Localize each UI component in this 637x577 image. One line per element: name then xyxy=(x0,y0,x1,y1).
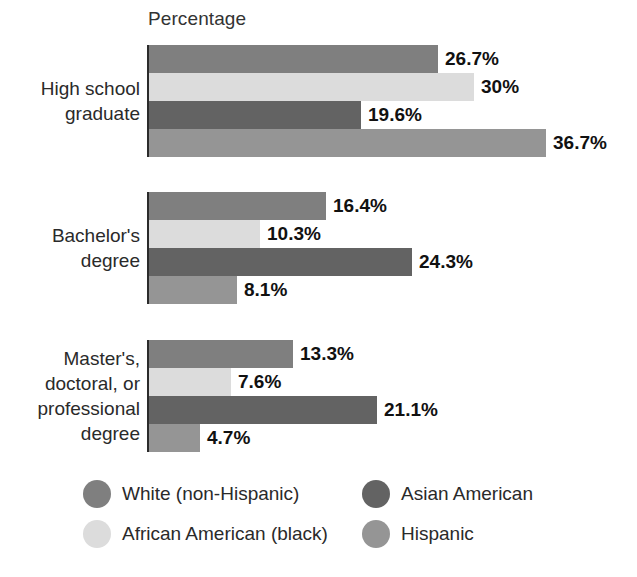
bar xyxy=(149,129,546,157)
bar xyxy=(149,101,361,129)
legend-item-white[interactable]: White (non-Hispanic) xyxy=(83,480,299,508)
bar-row: 16.4% xyxy=(149,192,629,220)
category-label: Bachelor's degree xyxy=(52,223,140,273)
bar-value-label: 7.6% xyxy=(231,371,281,393)
bar-row: 10.3% xyxy=(149,220,629,248)
bar xyxy=(149,340,293,368)
bar-value-label: 21.1% xyxy=(377,399,438,421)
bar-value-label: 4.7% xyxy=(200,427,250,449)
bar-row: 4.7% xyxy=(149,424,629,452)
bar xyxy=(149,248,412,276)
legend-swatch-circle-icon xyxy=(362,520,390,548)
bar xyxy=(149,73,474,101)
bar xyxy=(149,368,231,396)
bar-value-label: 24.3% xyxy=(412,251,473,273)
legend-label: White (non-Hispanic) xyxy=(122,483,299,505)
bar xyxy=(149,424,200,452)
legend-swatch-circle-icon xyxy=(83,480,111,508)
chart-legend: White (non-Hispanic)Asian AmericanAfrica… xyxy=(0,472,637,572)
legend-swatch-circle-icon xyxy=(83,520,111,548)
bar-group: High school graduate26.7%30%19.6%36.7% xyxy=(0,45,637,157)
legend-item-asian_american[interactable]: Asian American xyxy=(362,480,533,508)
bar xyxy=(149,192,326,220)
legend-item-african_american[interactable]: African American (black) xyxy=(83,520,328,548)
bar-group: Master's, doctoral, or professional degr… xyxy=(0,340,637,452)
bar xyxy=(149,45,438,73)
bar-group: Bachelor's degree16.4%10.3%24.3%8.1% xyxy=(0,192,637,304)
legend-label: Hispanic xyxy=(401,523,474,545)
bar xyxy=(149,220,260,248)
bar xyxy=(149,276,237,304)
bar xyxy=(149,396,377,424)
bar-value-label: 8.1% xyxy=(237,279,287,301)
bar-row: 8.1% xyxy=(149,276,629,304)
legend-swatch-circle-icon xyxy=(362,480,390,508)
bar-value-label: 16.4% xyxy=(326,195,387,217)
bar-value-label: 26.7% xyxy=(438,48,499,70)
bar-row: 36.7% xyxy=(149,129,629,157)
bar-row: 13.3% xyxy=(149,340,629,368)
bar-row: 19.6% xyxy=(149,101,629,129)
legend-label: African American (black) xyxy=(122,523,328,545)
bar-row: 30% xyxy=(149,73,629,101)
bar-value-label: 19.6% xyxy=(361,104,422,126)
bar-row: 7.6% xyxy=(149,368,629,396)
category-label: High school graduate xyxy=(41,76,140,126)
bar-value-label: 13.3% xyxy=(293,343,354,365)
bar-value-label: 30% xyxy=(474,76,519,98)
legend-label: Asian American xyxy=(401,483,533,505)
bar-chart: Educational Attainment Percentage High s… xyxy=(0,0,637,577)
bar-row: 26.7% xyxy=(149,45,629,73)
bar-value-label: 10.3% xyxy=(260,223,321,245)
plot-area: High school graduate26.7%30%19.6%36.7%Ba… xyxy=(0,0,637,470)
legend-item-hispanic[interactable]: Hispanic xyxy=(362,520,474,548)
bar-row: 21.1% xyxy=(149,396,629,424)
bar-row: 24.3% xyxy=(149,248,629,276)
bar-value-label: 36.7% xyxy=(546,132,607,154)
category-label: Master's, doctoral, or professional degr… xyxy=(38,346,140,446)
